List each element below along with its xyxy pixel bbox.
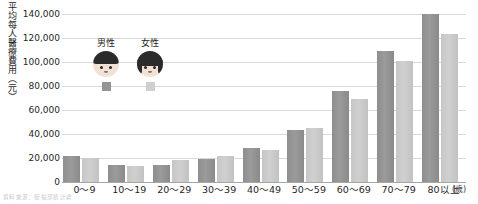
y-tick-label: 120,000	[16, 34, 60, 43]
male-face-icon	[93, 51, 119, 77]
bar-group	[421, 14, 466, 182]
bar-male	[287, 130, 304, 182]
x-tick-label: 10～19	[107, 183, 151, 197]
bar-group	[286, 14, 331, 182]
x-tick-label: 20～29	[152, 183, 196, 197]
bar-male	[422, 14, 439, 182]
bar-male	[243, 148, 260, 182]
legend-entry-female: 女性	[128, 38, 172, 91]
bar-female	[217, 156, 234, 182]
bar-group	[242, 14, 287, 182]
bar-male	[63, 156, 80, 182]
bar-male	[198, 159, 215, 182]
bar-female	[396, 61, 413, 182]
bar-group	[331, 14, 376, 182]
bar-female	[306, 128, 323, 182]
bar-group	[376, 14, 421, 182]
medical-expenditure-bar-chart: 平均每人醫療費用（元） 140,000120,000100,00080,0006…	[0, 0, 478, 204]
bar-female	[127, 166, 144, 182]
legend-swatch-female	[146, 82, 155, 91]
bar-male	[108, 165, 125, 182]
y-tick-label: 40,000	[16, 130, 60, 139]
y-axis-tick-labels: 140,000120,000100,00080,00060,00040,0002…	[12, 0, 60, 204]
source-note: 資料來源：衛福部統計處	[3, 193, 72, 201]
bar-group	[197, 14, 242, 182]
y-tick-label: 100,000	[16, 58, 60, 67]
chart-legend: 男性 女性	[84, 38, 180, 96]
bar-female	[82, 158, 99, 182]
x-tick-label: 40～49	[242, 183, 286, 197]
x-axis-tick-labels: 0～910～1920～2930～3940～4950～5960～6970～7980…	[62, 183, 466, 199]
legend-entry-male: 男性	[84, 38, 128, 91]
legend-label-female: 女性	[128, 38, 172, 49]
bar-male	[377, 51, 394, 182]
x-axis-unit-label: (歲)	[452, 184, 466, 196]
legend-swatch-male	[102, 82, 111, 91]
bar-female	[172, 160, 189, 182]
x-tick-label: 60～69	[332, 183, 376, 197]
bar-female	[351, 99, 368, 182]
legend-label-male: 男性	[84, 38, 128, 49]
y-tick-label: 20,000	[16, 154, 60, 163]
bar-male	[153, 165, 170, 182]
female-face-icon	[137, 51, 163, 77]
bar-female	[441, 34, 458, 182]
x-tick-label: 70～79	[377, 183, 421, 197]
x-tick-label: 30～39	[197, 183, 241, 197]
bar-male	[332, 91, 349, 182]
y-tick-label: 0	[16, 178, 60, 187]
y-tick-label: 80,000	[16, 82, 60, 91]
bar-female	[262, 150, 279, 182]
y-tick-label: 140,000	[16, 10, 60, 19]
y-tick-label: 60,000	[16, 106, 60, 115]
x-tick-label: 50～59	[287, 183, 331, 197]
